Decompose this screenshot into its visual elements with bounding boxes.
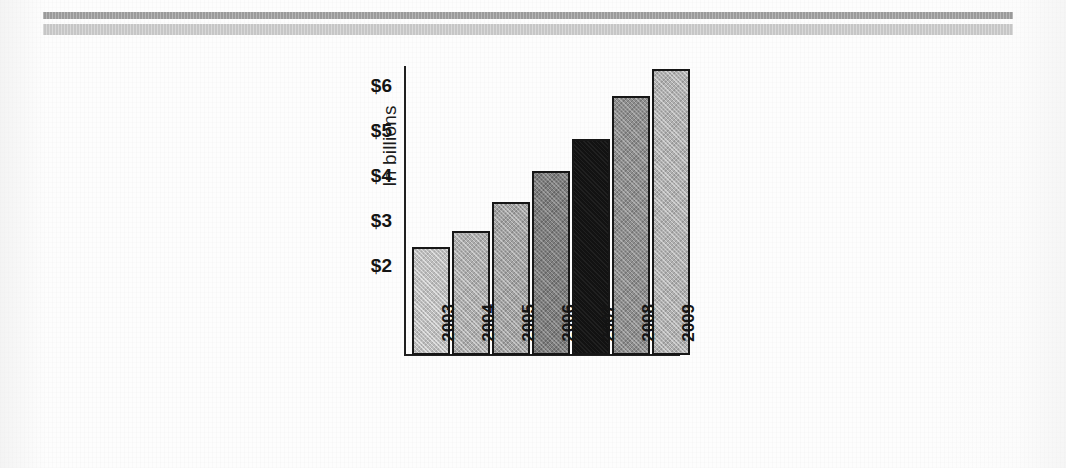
x-axis-tick-label-2005: 2005	[519, 304, 539, 362]
y-axis-tick-label: $5	[346, 121, 392, 140]
x-axis-tick-label-2003: 2003	[439, 304, 459, 362]
y-axis-tick-label: $4	[346, 166, 392, 185]
x-axis-tick-label-2004: 2004	[479, 304, 499, 362]
x-axis-tick-label-2007: 2007	[599, 304, 619, 362]
x-axis-tick-label-2006: 2006	[559, 304, 579, 362]
scanned-page: In billions $6$5$4$3$2 20032004200520062…	[0, 0, 1066, 468]
y-axis-tick-label: $3	[346, 211, 392, 230]
y-axis-tick-labels: $6$5$4$3$2	[346, 0, 392, 468]
x-axis-tick-label-2008: 2008	[639, 304, 659, 362]
y-axis-tick-label: $2	[346, 256, 392, 275]
y-axis-tick-label: $6	[346, 76, 392, 95]
x-axis-tick-label-2009: 2009	[679, 304, 699, 362]
bar-chart: In billions $6$5$4$3$2 20032004200520062…	[0, 0, 1066, 468]
